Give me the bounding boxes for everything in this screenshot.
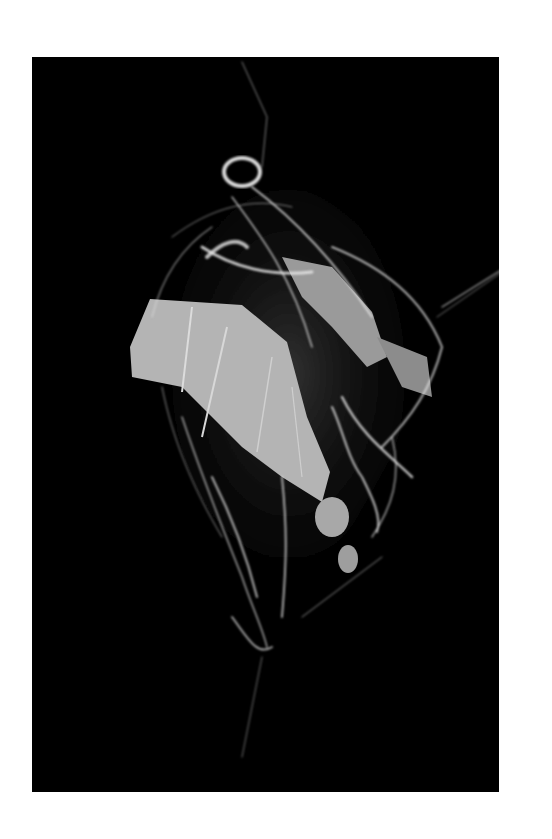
- web-and-wings-illustration: [32, 57, 499, 792]
- photograph: [32, 57, 499, 792]
